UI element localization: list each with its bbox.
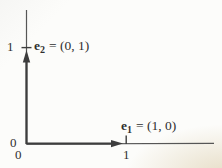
axes-canvas (0, 0, 222, 168)
e2-subscript: 2 (40, 44, 45, 55)
x-tick-label-1: 1 (123, 148, 130, 161)
origin-label-x: 0 (15, 148, 22, 161)
basis-vectors-figure: 1 e2= (0, 1) e1= (1, 0) 0 0 1 (0, 0, 222, 168)
e1-label: e1= (1, 0) (121, 119, 176, 133)
e2-arrowhead-icon (23, 50, 30, 63)
e1-value: = (1, 0) (136, 118, 176, 133)
e2-value: = (0, 1) (49, 38, 89, 53)
e1-arrowhead-icon (111, 140, 123, 147)
y-tick-label-1: 1 (7, 40, 14, 53)
e2-label: e2= (0, 1) (34, 39, 89, 53)
e1-subscript: 1 (127, 124, 132, 135)
